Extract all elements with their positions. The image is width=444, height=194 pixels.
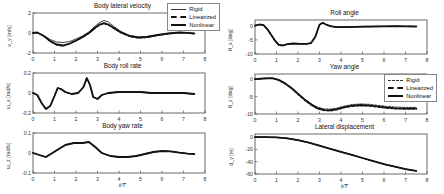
legend-label-rigid: Rigid bbox=[406, 77, 419, 83]
svg-text:-5: -5 bbox=[248, 37, 253, 43]
linearized-line-sample-icon bbox=[388, 87, 403, 89]
chart-title: Lateral displacement bbox=[225, 123, 444, 131]
svg-text:-2: -2 bbox=[26, 50, 31, 56]
svg-text:-0.2: -0.2 bbox=[22, 110, 31, 116]
legend-label-nonlinear: Nonlinear bbox=[189, 22, 214, 28]
svg-text:5: 5 bbox=[139, 56, 142, 62]
svg-text:4: 4 bbox=[118, 176, 121, 182]
svg-text:6: 6 bbox=[161, 56, 164, 62]
plot-area-roll-angle: 012345678-10-50 bbox=[236, 17, 432, 63]
y-axis-label: θ_z [deg] bbox=[225, 71, 236, 123]
svg-text:0: 0 bbox=[254, 177, 257, 183]
svg-text:2: 2 bbox=[297, 57, 300, 63]
legend-entry-rigid: Rigid bbox=[171, 6, 216, 12]
chart-title: Body roll rate bbox=[3, 62, 222, 70]
subplot-roll-angle: Roll angle θ_x [deg] 012345678-10-50 bbox=[225, 9, 444, 63]
svg-text:3: 3 bbox=[318, 117, 321, 123]
svg-text:7: 7 bbox=[404, 177, 407, 183]
svg-text:8: 8 bbox=[426, 177, 429, 183]
subplot-lateral-displacement: Lateral displacement d_y [m] 012345678-6… bbox=[225, 123, 444, 191]
svg-text:3: 3 bbox=[96, 176, 99, 182]
svg-text:-10: -10 bbox=[246, 111, 254, 117]
svg-text:0: 0 bbox=[28, 90, 31, 96]
svg-text:-20: -20 bbox=[246, 146, 254, 152]
legend-entry-linearized: Linearized bbox=[171, 14, 216, 20]
svg-text:6: 6 bbox=[383, 177, 386, 183]
svg-text:7: 7 bbox=[182, 176, 185, 182]
svg-text:6: 6 bbox=[161, 116, 164, 122]
svg-text:0: 0 bbox=[254, 57, 257, 63]
svg-text:0: 0 bbox=[250, 76, 253, 82]
legend-label-linearized: Linearized bbox=[406, 85, 433, 91]
svg-text:1: 1 bbox=[275, 117, 278, 123]
svg-text:4: 4 bbox=[118, 116, 121, 122]
subplot-yaw-angle: Yaw angle Rigid Linearized Nonlinear θ_z… bbox=[225, 63, 444, 123]
svg-text:0: 0 bbox=[254, 117, 257, 123]
svg-text:0: 0 bbox=[32, 176, 35, 182]
subplot-body-lateral-velocity: Body lateral velocity Rigid Linearized N… bbox=[3, 2, 222, 62]
x-axis-label: t/T bbox=[3, 182, 222, 190]
svg-text:2: 2 bbox=[75, 56, 78, 62]
legend-yaw-angle: Rigid Linearized Nonlinear bbox=[384, 74, 437, 102]
chart-title: Body yaw rate bbox=[3, 122, 222, 130]
svg-text:5: 5 bbox=[361, 117, 364, 123]
chart-title: Roll angle bbox=[225, 9, 444, 17]
figure: Body lateral velocity Rigid Linearized N… bbox=[0, 0, 444, 194]
svg-text:-0.1: -0.1 bbox=[22, 170, 31, 176]
plot-area-lateral-displacement: 012345678-60-40-200 bbox=[236, 131, 432, 183]
svg-text:1: 1 bbox=[53, 176, 56, 182]
svg-text:1: 1 bbox=[275, 177, 278, 183]
svg-text:0: 0 bbox=[250, 23, 253, 29]
legend-label-nonlinear: Nonlinear bbox=[406, 93, 431, 99]
rigid-line-sample-icon bbox=[171, 9, 186, 10]
svg-text:8: 8 bbox=[204, 116, 207, 122]
chart-title: Yaw angle bbox=[225, 63, 444, 71]
svg-text:0.1: 0.1 bbox=[24, 130, 31, 136]
svg-text:7: 7 bbox=[182, 56, 185, 62]
y-axis-label: ω_x [rad/s] bbox=[3, 70, 14, 122]
svg-text:8: 8 bbox=[426, 117, 429, 123]
legend-entry-linearized: Linearized bbox=[388, 85, 433, 91]
svg-text:0: 0 bbox=[32, 56, 35, 62]
rigid-line-sample-icon bbox=[388, 80, 403, 81]
legend-label-rigid: Rigid bbox=[189, 6, 202, 12]
svg-text:8: 8 bbox=[204, 56, 207, 62]
svg-text:-5: -5 bbox=[248, 94, 253, 100]
svg-text:0: 0 bbox=[250, 134, 253, 140]
svg-text:0: 0 bbox=[32, 116, 35, 122]
svg-text:6: 6 bbox=[161, 176, 164, 182]
nonlinear-line-sample-icon bbox=[388, 95, 403, 97]
legend-entry-rigid: Rigid bbox=[388, 77, 433, 83]
svg-text:8: 8 bbox=[426, 57, 429, 63]
svg-text:6: 6 bbox=[383, 117, 386, 123]
svg-text:0.2: 0.2 bbox=[24, 70, 31, 76]
legend-entry-nonlinear: Nonlinear bbox=[171, 22, 216, 28]
svg-text:0: 0 bbox=[28, 30, 31, 36]
y-axis-label: v_y [m/s] bbox=[3, 10, 14, 62]
svg-text:4: 4 bbox=[118, 56, 121, 62]
svg-text:2: 2 bbox=[297, 117, 300, 123]
svg-text:3: 3 bbox=[96, 116, 99, 122]
svg-text:3: 3 bbox=[318, 57, 321, 63]
subplot-body-roll-rate: Body roll rate ω_x [rad/s] 012345678-0.2… bbox=[3, 62, 222, 122]
svg-text:5: 5 bbox=[139, 116, 142, 122]
svg-text:7: 7 bbox=[182, 116, 185, 122]
nonlinear-line-sample-icon bbox=[171, 24, 186, 26]
svg-text:5: 5 bbox=[139, 176, 142, 182]
left-column: Body lateral velocity Rigid Linearized N… bbox=[3, 2, 222, 194]
svg-text:4: 4 bbox=[340, 177, 343, 183]
svg-text:6: 6 bbox=[383, 57, 386, 63]
legend-label-linearized: Linearized bbox=[189, 14, 216, 20]
svg-text:5: 5 bbox=[361, 57, 364, 63]
x-axis-label: t/T bbox=[225, 183, 444, 191]
plot-area-roll-rate: 012345678-0.200.2 bbox=[14, 70, 210, 122]
y-axis-label: θ_x [deg] bbox=[225, 17, 236, 63]
svg-text:2: 2 bbox=[28, 10, 31, 16]
svg-text:0: 0 bbox=[28, 150, 31, 156]
right-column: Roll angle θ_x [deg] 012345678-10-50 Yaw… bbox=[225, 2, 444, 194]
svg-text:4: 4 bbox=[340, 117, 343, 123]
y-axis-label: ω_z [rad/s] bbox=[3, 130, 14, 182]
svg-text:4: 4 bbox=[340, 57, 343, 63]
svg-text:2: 2 bbox=[297, 177, 300, 183]
linearized-line-sample-icon bbox=[171, 16, 186, 18]
